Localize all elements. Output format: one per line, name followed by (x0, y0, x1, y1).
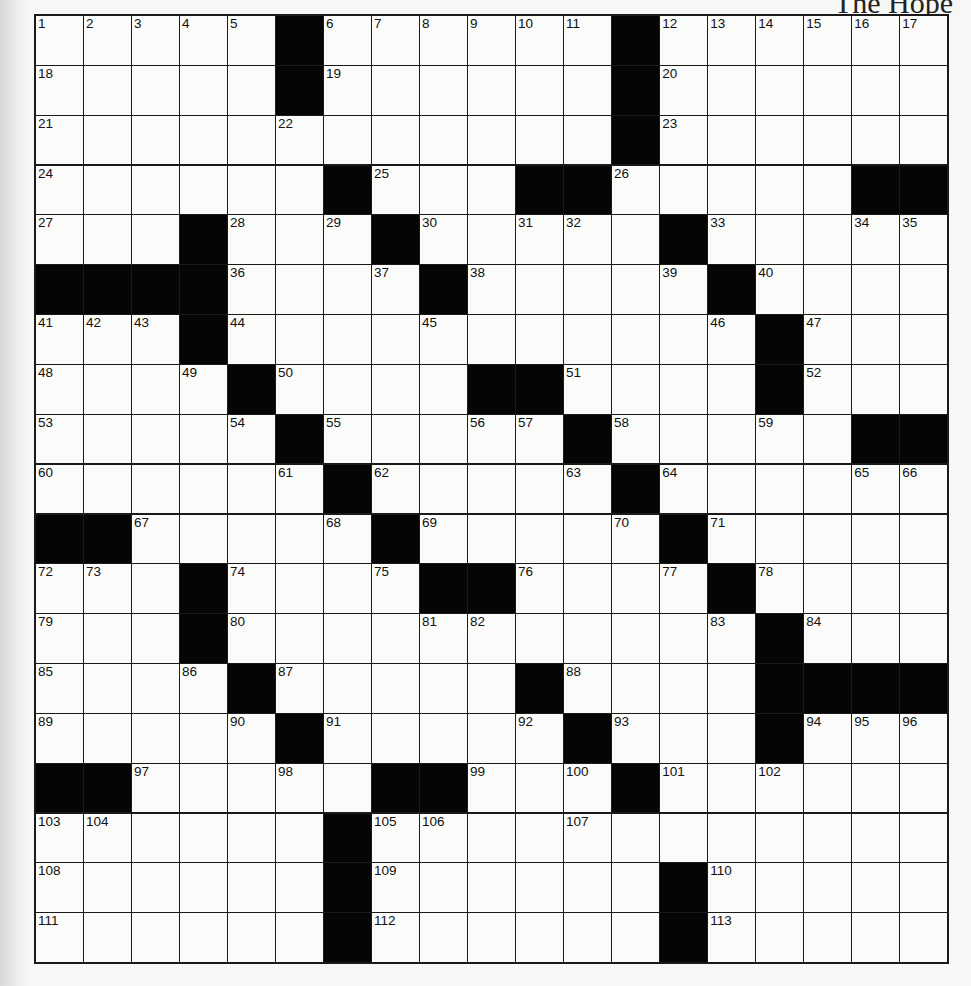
grid-cell[interactable]: 36 (228, 265, 275, 314)
grid-cell[interactable]: 18 (36, 66, 83, 115)
grid-cell[interactable]: 85 (36, 664, 83, 713)
grid-cell[interactable]: 105 (372, 814, 419, 863)
grid-cell[interactable]: 65 (852, 465, 899, 514)
grid-cell[interactable]: 93 (612, 714, 659, 763)
grid-cell[interactable] (900, 116, 947, 165)
grid-cell[interactable] (228, 465, 275, 514)
grid-cell[interactable] (372, 614, 419, 663)
grid-cell[interactable] (420, 913, 467, 962)
grid-cell[interactable]: 92 (516, 714, 563, 763)
grid-cell[interactable] (516, 515, 563, 564)
grid-cell[interactable] (660, 415, 707, 464)
grid-cell[interactable]: 82 (468, 614, 515, 663)
grid-cell[interactable] (612, 564, 659, 613)
grid-cell[interactable] (900, 365, 947, 414)
grid-cell[interactable]: 87 (276, 664, 323, 713)
grid-cell[interactable] (228, 814, 275, 863)
grid-cell[interactable] (708, 814, 755, 863)
grid-cell[interactable] (756, 215, 803, 264)
grid-cell[interactable] (468, 166, 515, 215)
grid-cell[interactable] (372, 664, 419, 713)
grid-cell[interactable] (612, 215, 659, 264)
grid-cell[interactable] (132, 863, 179, 912)
grid-cell[interactable] (756, 913, 803, 962)
grid-cell[interactable] (372, 116, 419, 165)
grid-cell[interactable]: 109 (372, 863, 419, 912)
grid-cell[interactable] (564, 116, 611, 165)
grid-cell[interactable] (276, 315, 323, 364)
grid-cell[interactable] (276, 913, 323, 962)
grid-cell[interactable] (900, 265, 947, 314)
grid-cell[interactable] (324, 564, 371, 613)
grid-cell[interactable] (180, 66, 227, 115)
grid-cell[interactable] (564, 614, 611, 663)
grid-cell[interactable] (372, 365, 419, 414)
grid-cell[interactable]: 103 (36, 814, 83, 863)
grid-cell[interactable]: 5 (228, 16, 275, 65)
grid-cell[interactable] (612, 614, 659, 663)
grid-cell[interactable]: 57 (516, 415, 563, 464)
grid-cell[interactable] (852, 614, 899, 663)
grid-cell[interactable] (84, 465, 131, 514)
grid-cell[interactable]: 28 (228, 215, 275, 264)
grid-cell[interactable] (804, 66, 851, 115)
grid-cell[interactable] (660, 814, 707, 863)
grid-cell[interactable]: 81 (420, 614, 467, 663)
grid-cell[interactable] (132, 913, 179, 962)
grid-cell[interactable]: 11 (564, 16, 611, 65)
grid-cell[interactable] (660, 664, 707, 713)
grid-cell[interactable] (612, 365, 659, 414)
grid-cell[interactable] (132, 66, 179, 115)
grid-cell[interactable] (180, 116, 227, 165)
grid-cell[interactable] (468, 913, 515, 962)
grid-cell[interactable] (756, 66, 803, 115)
grid-cell[interactable]: 97 (132, 764, 179, 813)
grid-cell[interactable] (228, 116, 275, 165)
grid-cell[interactable] (324, 116, 371, 165)
grid-cell[interactable] (468, 714, 515, 763)
grid-cell[interactable] (564, 564, 611, 613)
grid-cell[interactable]: 16 (852, 16, 899, 65)
grid-cell[interactable]: 7 (372, 16, 419, 65)
grid-cell[interactable] (468, 66, 515, 115)
grid-cell[interactable]: 68 (324, 515, 371, 564)
grid-cell[interactable]: 20 (660, 66, 707, 115)
grid-cell[interactable] (84, 664, 131, 713)
grid-cell[interactable] (84, 166, 131, 215)
grid-cell[interactable] (516, 764, 563, 813)
grid-cell[interactable] (180, 166, 227, 215)
grid-cell[interactable] (180, 515, 227, 564)
grid-cell[interactable]: 27 (36, 215, 83, 264)
grid-cell[interactable] (852, 863, 899, 912)
grid-cell[interactable] (612, 315, 659, 364)
grid-cell[interactable] (180, 714, 227, 763)
grid-cell[interactable]: 70 (612, 515, 659, 564)
grid-cell[interactable] (804, 166, 851, 215)
grid-cell[interactable]: 77 (660, 564, 707, 613)
grid-cell[interactable] (324, 265, 371, 314)
grid-cell[interactable] (420, 863, 467, 912)
grid-cell[interactable]: 110 (708, 863, 755, 912)
grid-cell[interactable] (276, 614, 323, 663)
grid-cell[interactable]: 52 (804, 365, 851, 414)
grid-cell[interactable]: 30 (420, 215, 467, 264)
grid-cell[interactable]: 72 (36, 564, 83, 613)
grid-cell[interactable] (564, 863, 611, 912)
grid-cell[interactable] (852, 116, 899, 165)
grid-cell[interactable]: 76 (516, 564, 563, 613)
grid-cell[interactable]: 22 (276, 116, 323, 165)
grid-cell[interactable]: 112 (372, 913, 419, 962)
grid-cell[interactable] (852, 365, 899, 414)
grid-cell[interactable] (612, 265, 659, 314)
grid-cell[interactable]: 71 (708, 515, 755, 564)
grid-cell[interactable] (84, 365, 131, 414)
grid-cell[interactable]: 12 (660, 16, 707, 65)
grid-cell[interactable] (132, 814, 179, 863)
grid-cell[interactable] (804, 116, 851, 165)
grid-cell[interactable] (276, 215, 323, 264)
grid-cell[interactable]: 51 (564, 365, 611, 414)
grid-cell[interactable]: 15 (804, 16, 851, 65)
grid-cell[interactable] (756, 814, 803, 863)
grid-cell[interactable]: 100 (564, 764, 611, 813)
grid-cell[interactable] (132, 116, 179, 165)
